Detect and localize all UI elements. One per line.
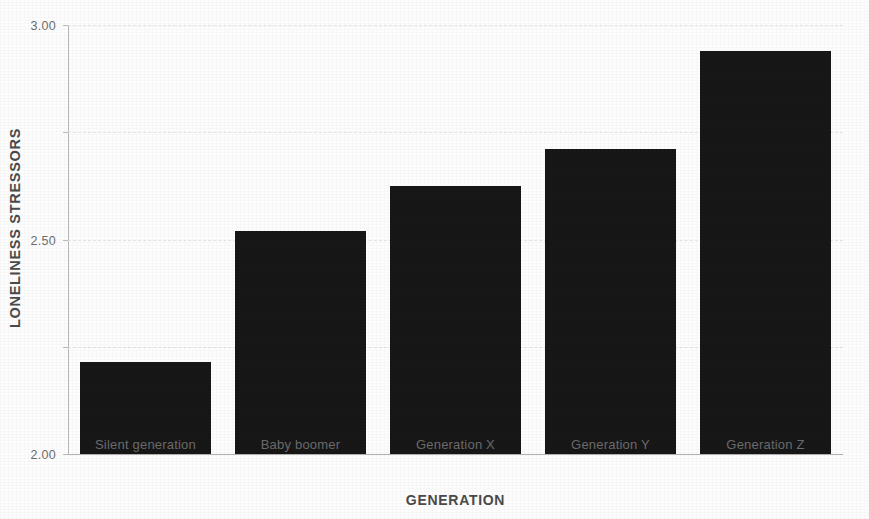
y-axis-tick-label: 3.00 bbox=[30, 19, 56, 33]
x-axis-category-label: Generation Y bbox=[533, 437, 688, 452]
y-axis-title-label: LONELINESS STRESSORS bbox=[7, 127, 23, 327]
bar-chart-figure: LONELINESS STRESSORS 1.001.502.002.503.0… bbox=[0, 0, 869, 519]
x-axis-category-label: Silent generation bbox=[68, 437, 223, 452]
y-axis-tick: 2.00 bbox=[63, 240, 68, 241]
x-axis-title-label: GENERATION bbox=[406, 492, 505, 508]
gridline bbox=[68, 25, 843, 26]
bar bbox=[545, 149, 676, 454]
x-axis-line bbox=[68, 454, 843, 455]
x-axis-category-label: Generation X bbox=[378, 437, 533, 452]
x-axis-title: GENERATION bbox=[68, 492, 843, 508]
plot-area: 1.001.502.002.503.00 bbox=[68, 25, 843, 455]
y-axis-tick: 2.50 bbox=[63, 132, 68, 133]
y-axis-title: LONELINESS STRESSORS bbox=[0, 0, 30, 455]
bar bbox=[235, 231, 366, 454]
y-axis-tick: 1.00 bbox=[63, 454, 68, 455]
y-axis-tick: 3.00 bbox=[63, 25, 68, 26]
y-axis-tick: 1.50 bbox=[63, 347, 68, 348]
y-axis-tick-label: 2.50 bbox=[30, 234, 56, 248]
bar bbox=[700, 51, 831, 454]
x-axis-category-label: Baby boomer bbox=[223, 437, 378, 452]
y-axis-tick-label: 2.00 bbox=[30, 448, 56, 462]
bar bbox=[390, 186, 521, 454]
x-axis-category-label: Generation Z bbox=[688, 437, 843, 452]
